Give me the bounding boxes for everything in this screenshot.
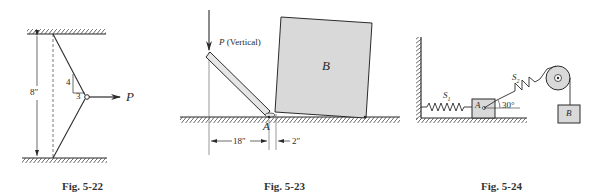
dimension-label-2in: 2″ — [292, 137, 300, 146]
spring-s1 — [421, 103, 472, 111]
pulley — [546, 66, 570, 90]
pin-joint — [85, 95, 90, 100]
dimension-label-8in: 8″ — [30, 88, 38, 97]
fig-5-24-drawing — [416, 37, 580, 123]
spring-s1-subscript: 1 — [448, 96, 451, 102]
ground — [180, 117, 400, 123]
spring-s2-label: S2 — [512, 73, 520, 84]
figures-canvas — [0, 0, 602, 196]
ceiling-support — [27, 29, 106, 34]
block-a-label: A — [475, 101, 481, 110]
fig-5-23-drawing — [180, 10, 400, 155]
slope-run-label: 3 — [76, 92, 81, 101]
dimension-label-18in: 18″ — [233, 137, 246, 146]
slope-rise-label: 4 — [66, 78, 71, 87]
force-label-p: P — [126, 90, 134, 103]
caption-fig-5-23: Fig. 5-23 — [264, 181, 305, 192]
force-symbol: P — [219, 37, 225, 47]
spring-s2 — [484, 66, 556, 108]
block-b-label: B — [566, 109, 572, 118]
wall — [416, 37, 421, 120]
spring-s2-subscript: 2 — [517, 78, 520, 84]
point-label-a: A — [263, 121, 270, 132]
caption-fig-5-24: Fig. 5-24 — [481, 181, 522, 192]
force-label-p-vertical: P (Vertical) — [219, 38, 261, 47]
floor-support — [22, 158, 107, 163]
caption-fig-5-22: Fig. 5-22 — [62, 181, 103, 192]
lower-member — [53, 99, 85, 158]
floor — [416, 118, 527, 123]
force-note: (Vertical) — [227, 37, 261, 47]
inclined-bar — [206, 52, 270, 116]
angle-label-30deg: 30° — [502, 101, 515, 110]
spring-s1-label: S1 — [443, 91, 451, 102]
block-label-b: B — [322, 59, 330, 72]
